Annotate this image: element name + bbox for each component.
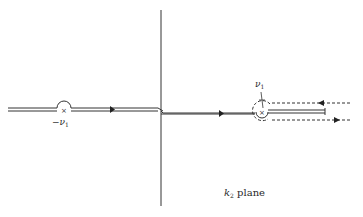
arrow-right-icon: [334, 117, 340, 123]
contour-svg: × ×: [0, 0, 363, 217]
contour-left: [8, 101, 163, 111]
sign: −: [52, 117, 60, 127]
pole-marker-icon: ×: [61, 107, 67, 115]
dashed-detour: [253, 101, 350, 121]
pole-label-positive: ν1: [255, 79, 264, 90]
contour-diagram: × × −ν1 ν1 k2 plane: [0, 0, 363, 217]
pole-label-negative: −ν1: [52, 117, 69, 128]
subscript: 1: [260, 83, 264, 90]
subscript: 1: [65, 121, 69, 128]
arrow-right-icon: [110, 106, 115, 113]
arrow-left-icon: [318, 100, 324, 106]
arrow-right-icon: [219, 110, 224, 117]
plane-text: plane: [237, 187, 265, 198]
plane-label: k2 plane: [224, 187, 265, 199]
subscript: 2: [230, 192, 234, 199]
contour-right: [161, 108, 325, 115]
pole-marker-icon: ×: [259, 109, 265, 117]
